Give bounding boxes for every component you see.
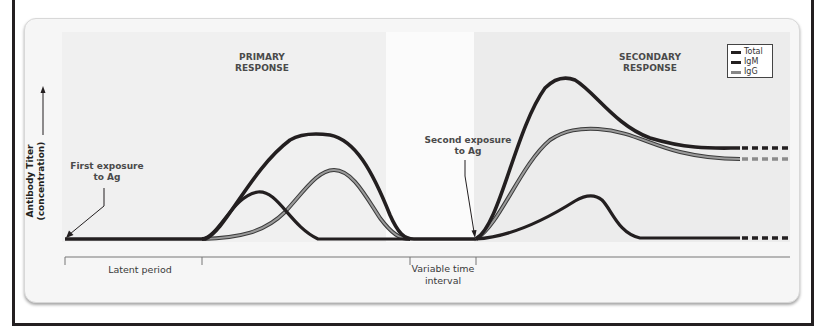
latent-period-label: Latent period: [90, 264, 190, 276]
total-secondary-curve: [476, 78, 740, 239]
primary-response-label: PRIMARY RESPONSE: [212, 52, 312, 74]
first-exposure-label: First exposure to Ag: [62, 161, 152, 183]
legend-item-total: Total: [731, 47, 769, 57]
igm-secondary-curve: [476, 196, 740, 239]
legend-swatch-total: [731, 51, 741, 54]
legend-item-igm: IgM: [731, 57, 769, 67]
secondary-response-label: SECONDARY RESPONSE: [590, 52, 710, 74]
second-exposure-arrow-icon: [465, 160, 477, 238]
first-exposure-arrow-icon: [66, 188, 104, 238]
legend-swatch-igm: [731, 61, 741, 64]
legend: Total IgM IgG: [727, 44, 773, 78]
legend-item-igg: IgG: [731, 67, 769, 77]
variable-time-interval-label: Variable time interval: [400, 263, 486, 287]
second-exposure-label: Second exposure to Ag: [418, 135, 518, 157]
y-axis-label: Antibody Titer (concentration): [25, 121, 47, 241]
igg-primary-curve: [202, 170, 410, 239]
legend-swatch-igg: [731, 71, 741, 74]
